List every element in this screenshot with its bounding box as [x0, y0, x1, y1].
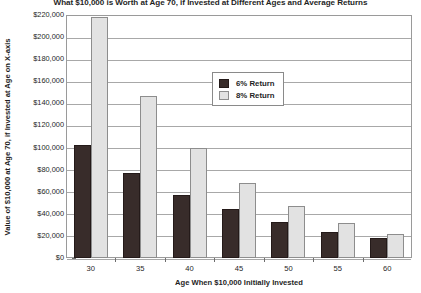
legend-label: 6% Return: [236, 79, 275, 88]
x-axis-tick-label: 40: [170, 264, 210, 273]
y-axis-tick-label: $20,000: [12, 232, 64, 240]
x-axis-tick-mark: [264, 258, 265, 262]
y-axis-tick-label: $80,000: [12, 166, 64, 174]
gridline: [67, 170, 411, 171]
legend-swatch-icon: [219, 79, 229, 88]
gridline: [67, 148, 411, 149]
y-axis-tick-label: $200,000: [12, 33, 64, 41]
y-axis-tick-label: $140,000: [12, 99, 64, 107]
y-axis-tick-label: $180,000: [12, 55, 64, 63]
x-axis-tick-mark: [313, 258, 314, 262]
chart-legend: 6% Return8% Return: [212, 72, 284, 106]
y-axis-tick-label: $0: [12, 254, 64, 262]
chart-container: What $10,000 is Worth at Age 70, if Inve…: [0, 0, 421, 293]
x-axis-tick-label: 35: [120, 264, 160, 273]
legend-label: 8% Return: [236, 91, 275, 100]
x-axis-tick-label: 60: [367, 264, 407, 273]
x-axis-title: Age When $10,000 Initially Invested: [66, 278, 412, 287]
x-axis-tick-label: 55: [318, 264, 358, 273]
y-axis-tick-label: $160,000: [12, 77, 64, 85]
gridline: [67, 60, 411, 61]
x-axis-tick-mark: [165, 258, 166, 262]
x-axis-tick-mark: [115, 258, 116, 262]
gridline: [67, 259, 411, 260]
legend-item: 6% Return: [219, 77, 275, 89]
gridline: [67, 214, 411, 215]
x-axis-tick-mark: [363, 258, 364, 262]
gridline: [67, 192, 411, 193]
gridline: [67, 38, 411, 39]
plot-area: [66, 15, 412, 258]
y-axis-tick-label: $40,000: [12, 210, 64, 218]
x-axis-tick-mark: [214, 258, 215, 262]
y-axis-tick-label: $220,000: [12, 11, 64, 19]
chart-title: What $10,000 is Worth at Age 70, if Inve…: [0, 0, 421, 7]
x-axis-tick-label: 30: [71, 264, 111, 273]
y-axis-ticks: $220,000$200,000$180,000$160,000$140,000…: [10, 15, 64, 258]
x-axis-tick-label: 50: [268, 264, 308, 273]
y-axis-tick-label: $100,000: [12, 144, 64, 152]
x-axis-tick-label: 45: [219, 264, 259, 273]
y-axis-tick-label: $60,000: [12, 188, 64, 196]
gridline: [67, 126, 411, 127]
gridline: [67, 236, 411, 237]
legend-item: 8% Return: [219, 89, 275, 101]
legend-swatch-icon: [219, 91, 229, 100]
y-axis-tick-label: $120,000: [12, 121, 64, 129]
